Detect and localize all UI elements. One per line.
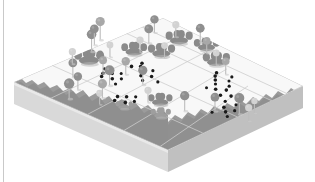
point-sample [156, 80, 159, 83]
tree-canopy [144, 24, 153, 33]
illustration-canvas: Isometric terrain parcel with survey gri… [0, 0, 315, 182]
point-sample [226, 115, 229, 118]
tree-canopy [251, 98, 257, 104]
point-sample [224, 100, 227, 103]
point-sample [125, 95, 129, 99]
tree-canopy [196, 24, 205, 33]
point-sample [114, 82, 117, 85]
tree-canopy [107, 41, 114, 48]
tree-canopy [150, 15, 158, 23]
point-sample [116, 95, 120, 99]
point-sample [214, 87, 218, 91]
point-sample [140, 61, 144, 65]
point-sample [113, 99, 117, 103]
point-sample [130, 65, 134, 69]
point-sample [120, 72, 123, 75]
point-sample [224, 110, 228, 114]
point-sample [150, 75, 154, 79]
point-sample [111, 77, 115, 81]
tree-canopy [122, 57, 130, 65]
tree-canopy [203, 37, 211, 45]
tree-canopy [138, 66, 147, 75]
tree-canopy [99, 56, 107, 64]
point-sample [120, 77, 123, 80]
tree-canopy [105, 65, 115, 75]
point-sample [215, 71, 219, 75]
tree-canopy [96, 17, 105, 26]
tree-canopy [211, 93, 220, 102]
tree-canopy [222, 57, 230, 65]
point-sample [222, 105, 226, 109]
tree-canopy [144, 87, 151, 94]
point-sample [228, 85, 231, 88]
point-sample [205, 86, 208, 89]
point-sample [214, 78, 218, 82]
point-sample [229, 94, 233, 98]
point-sample [225, 88, 229, 92]
point-sample [214, 82, 217, 85]
tree-canopy [161, 42, 168, 49]
point-sample [134, 95, 137, 98]
point-sample [133, 100, 136, 103]
point-sample [213, 74, 217, 78]
isometric-terrain-illustration [0, 0, 315, 182]
tree-canopy [234, 93, 244, 103]
tree-canopy [64, 78, 74, 88]
point-sample [227, 79, 230, 82]
tree-canopy [69, 48, 76, 55]
point-sample [233, 109, 236, 112]
point-sample [230, 75, 233, 78]
tree-canopy [172, 21, 179, 28]
point-sample [234, 103, 237, 106]
tree-canopy [136, 36, 143, 43]
tree-canopy [98, 79, 107, 88]
point-sample [211, 111, 214, 114]
point-sample [151, 69, 154, 72]
tree-canopy [180, 91, 189, 100]
tree-canopy [74, 72, 82, 80]
tree-canopy [245, 104, 252, 111]
point-sample [100, 75, 104, 79]
tree-canopy [213, 49, 220, 56]
tree-canopy [90, 24, 99, 33]
point-sample [124, 101, 128, 105]
